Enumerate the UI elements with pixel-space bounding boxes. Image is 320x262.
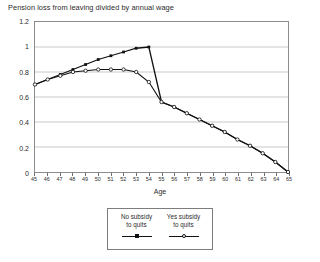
legend-marker-icon bbox=[182, 234, 186, 238]
series-marker bbox=[46, 78, 49, 81]
series-marker bbox=[210, 124, 213, 127]
series-marker bbox=[109, 68, 112, 71]
x-axis-tick-label: 47 bbox=[57, 176, 63, 182]
legend-entry-no-subsidy: No subsidy to quits bbox=[113, 213, 160, 240]
chart-title: Pension loss from leaving divided by ann… bbox=[8, 3, 174, 12]
legend-label-line1: No subsidy bbox=[121, 213, 152, 221]
x-axis-tick-label: 46 bbox=[44, 176, 50, 182]
series-marker bbox=[198, 118, 201, 121]
series-marker bbox=[147, 80, 150, 83]
series-marker bbox=[84, 69, 87, 72]
series-marker bbox=[236, 138, 239, 141]
x-axis-tick-label: 54 bbox=[146, 176, 152, 182]
x-axis-tick-label: 48 bbox=[69, 176, 75, 182]
series-marker bbox=[122, 68, 125, 71]
series-line bbox=[35, 69, 288, 172]
legend-label-line2: to quits bbox=[126, 221, 146, 229]
data-series-layer bbox=[35, 22, 288, 172]
legend-label-line1: Yes subsidy bbox=[167, 213, 200, 221]
series-line bbox=[35, 47, 288, 172]
x-axis-tick-label: 64 bbox=[273, 176, 279, 182]
x-axis-label: Age bbox=[0, 188, 320, 195]
legend-entry-yes-subsidy: Yes subsidy to quits bbox=[160, 213, 207, 240]
series-marker bbox=[97, 68, 100, 71]
x-axis-tick-label: 49 bbox=[82, 176, 88, 182]
series-marker bbox=[110, 54, 113, 57]
x-axis-tick-label: 63 bbox=[261, 176, 267, 182]
series-marker bbox=[147, 46, 150, 49]
x-axis-tick-label: 57 bbox=[184, 176, 190, 182]
x-axis-tick-label: 60 bbox=[222, 176, 228, 182]
legend-swatch-yes-subsidy bbox=[169, 234, 199, 240]
x-axis-tick-label: 59 bbox=[210, 176, 216, 182]
series-marker bbox=[261, 152, 264, 155]
series-marker bbox=[122, 51, 125, 54]
x-axis-tick-label: 52 bbox=[120, 176, 126, 182]
series-marker bbox=[274, 160, 277, 163]
series-marker bbox=[172, 105, 175, 108]
series-marker bbox=[84, 63, 87, 66]
series-marker bbox=[97, 58, 100, 61]
legend-label-line2: to quits bbox=[173, 221, 193, 229]
series-marker bbox=[135, 70, 138, 73]
chart-legend: No subsidy to quits Yes subsidy to quits bbox=[107, 208, 213, 250]
y-axis-tick-label: 0 bbox=[25, 170, 29, 177]
series-marker bbox=[248, 144, 251, 147]
series-marker bbox=[185, 112, 188, 115]
y-axis-tick-label: 0.8 bbox=[19, 68, 29, 75]
y-axis-tick-label: 0.4 bbox=[19, 119, 29, 126]
legend-swatch-no-subsidy bbox=[122, 234, 152, 240]
legend-marker-icon bbox=[135, 234, 139, 238]
x-axis-tick-label: 45 bbox=[31, 176, 37, 182]
y-axis-tick-label: 1.2 bbox=[19, 18, 29, 25]
series-marker bbox=[59, 74, 62, 77]
plot-area bbox=[34, 21, 289, 173]
y-axis-tick-label: 1 bbox=[25, 43, 29, 50]
series-marker bbox=[160, 100, 163, 103]
series-marker bbox=[135, 47, 138, 50]
x-axis-tick-label: 61 bbox=[235, 176, 241, 182]
x-axis-tick-label: 58 bbox=[197, 176, 203, 182]
x-axis-tick-label: 56 bbox=[171, 176, 177, 182]
y-axis-tick-label: 0.2 bbox=[19, 144, 29, 151]
x-axis-tick-label: 53 bbox=[133, 176, 139, 182]
y-axis-tick-label: 0.6 bbox=[19, 94, 29, 101]
x-axis-tick-label: 55 bbox=[159, 176, 165, 182]
x-axis-tick-label: 65 bbox=[286, 176, 292, 182]
series-marker bbox=[33, 83, 36, 86]
chart-plot-wrapper: 00.20.40.60.811.2 4546474849505152535455… bbox=[0, 16, 320, 181]
series-marker bbox=[71, 70, 74, 73]
series-marker bbox=[223, 130, 226, 133]
x-axis-tick-label: 51 bbox=[108, 176, 114, 182]
x-axis-tick-label: 62 bbox=[248, 176, 254, 182]
x-axis-tick-label: 50 bbox=[95, 176, 101, 182]
